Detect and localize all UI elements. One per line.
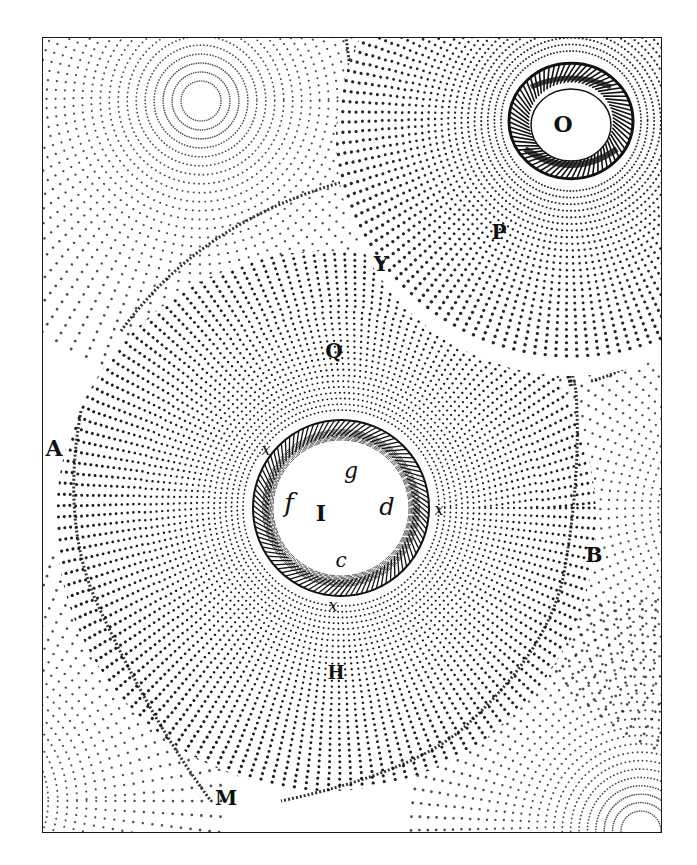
label-h-14: H: [327, 662, 344, 683]
vortex-engraving: OPYQAxgfIdxcxBHM: [43, 38, 662, 833]
label-c-11: c: [335, 548, 346, 572]
label-x-10: x: [434, 500, 443, 519]
label-d-9: d: [379, 493, 394, 521]
label-m-15: M: [215, 786, 237, 810]
label-a-4: A: [44, 435, 63, 461]
label-o-0: O: [553, 111, 572, 137]
label-i-8: I: [316, 500, 326, 526]
label-q-3: Q: [325, 339, 342, 363]
label-y-2: Y: [373, 252, 389, 276]
page-header-mark: [0, 0, 697, 14]
label-p-1: P: [491, 220, 506, 244]
label-x-5: x: [261, 440, 270, 459]
label-x-12: x: [328, 596, 337, 615]
engraving-plate: OPYQAxgfIdxcxBHM: [42, 37, 662, 833]
label-g-6: g: [344, 458, 358, 483]
label-b-13: B: [586, 543, 603, 567]
